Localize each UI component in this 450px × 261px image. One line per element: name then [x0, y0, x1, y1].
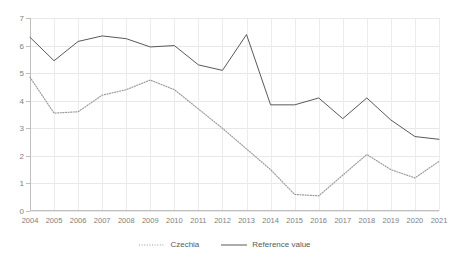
x-tick-label: 2012 — [214, 216, 231, 225]
plot-area — [30, 18, 439, 211]
line-chart: 01234567 2004200520062007200820092010201… — [0, 0, 450, 261]
legend-item-reference-value: Reference value — [221, 240, 310, 249]
y-tick-mark — [26, 211, 30, 212]
legend-item-czechia: Czechia — [139, 240, 199, 249]
y-tick-label: 1 — [20, 179, 24, 188]
x-tick-label: 2013 — [238, 216, 255, 225]
x-axis-labels: 2004200520062007200820092010201120122013… — [30, 216, 439, 230]
y-tick-label: 6 — [20, 41, 24, 50]
x-tick-label: 2015 — [286, 216, 303, 225]
x-tick-label: 2016 — [310, 216, 327, 225]
y-tick-label: 3 — [20, 124, 24, 133]
x-tick-label: 2006 — [70, 216, 87, 225]
x-tick-label: 2019 — [383, 216, 400, 225]
y-tick-label: 5 — [20, 69, 24, 78]
y-axis-labels: 01234567 — [0, 18, 24, 211]
y-tick-label: 2 — [20, 151, 24, 160]
series-plot — [30, 18, 439, 211]
y-tick-label: 4 — [20, 96, 24, 105]
legend-label-czechia: Czechia — [170, 240, 199, 249]
x-tick-label: 2007 — [94, 216, 111, 225]
grid-line-horizontal — [30, 211, 439, 212]
grid-line-vertical — [439, 18, 440, 211]
solid-line-swatch — [221, 241, 247, 249]
y-tick-label: 0 — [20, 207, 24, 216]
chart-legend: Czechia Reference value — [0, 240, 450, 249]
y-tick-label: 7 — [20, 14, 24, 23]
legend-label-reference-value: Reference value — [252, 240, 310, 249]
series-line-czechia — [30, 77, 439, 196]
x-tick-label: 2009 — [142, 216, 159, 225]
x-tick-label: 2018 — [358, 216, 375, 225]
x-tick-label: 2011 — [190, 216, 206, 225]
x-tick-label: 2008 — [118, 216, 135, 225]
x-tick-label: 2005 — [46, 216, 63, 225]
x-tick-label: 2020 — [407, 216, 424, 225]
x-tick-label: 2004 — [22, 216, 39, 225]
x-tick-label: 2010 — [166, 216, 183, 225]
series-line-reference-value — [30, 35, 439, 140]
x-tick-label: 2017 — [334, 216, 351, 225]
x-tick-label: 2021 — [431, 216, 448, 225]
x-tick-label: 2014 — [262, 216, 279, 225]
dotted-line-swatch — [139, 241, 165, 249]
